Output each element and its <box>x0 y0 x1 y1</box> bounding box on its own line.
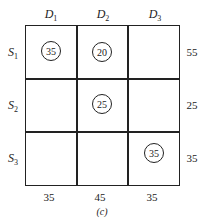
demand-d2: 45 <box>88 191 112 203</box>
grid-line <box>76 26 78 185</box>
supply-s1: 55 <box>180 46 204 58</box>
demand-d3: 35 <box>140 191 164 203</box>
column-header-d1: D1 <box>36 7 66 23</box>
row-header-s1: S1 <box>0 45 26 61</box>
allocation-circle-s3-d3: 35 <box>144 143 164 163</box>
figure-caption: (c) <box>87 206 117 217</box>
grid-line <box>127 26 129 185</box>
allocation-circle-s2-d2: 25 <box>92 94 112 114</box>
column-header-d3: D3 <box>140 7 170 23</box>
demand-d1: 35 <box>37 191 61 203</box>
column-header-d2: D2 <box>88 7 118 23</box>
supply-s3: 35 <box>180 152 204 164</box>
transportation-table: 35 20 25 35 <box>25 25 180 186</box>
row-header-s3: S3 <box>0 151 26 167</box>
grid-line <box>26 131 179 133</box>
grid-line <box>26 78 179 80</box>
allocation-circle-s1-d1: 35 <box>41 41 61 61</box>
supply-s2: 25 <box>180 99 204 111</box>
allocation-circle-s1-d2: 20 <box>92 42 112 62</box>
row-header-s2: S2 <box>0 98 26 114</box>
